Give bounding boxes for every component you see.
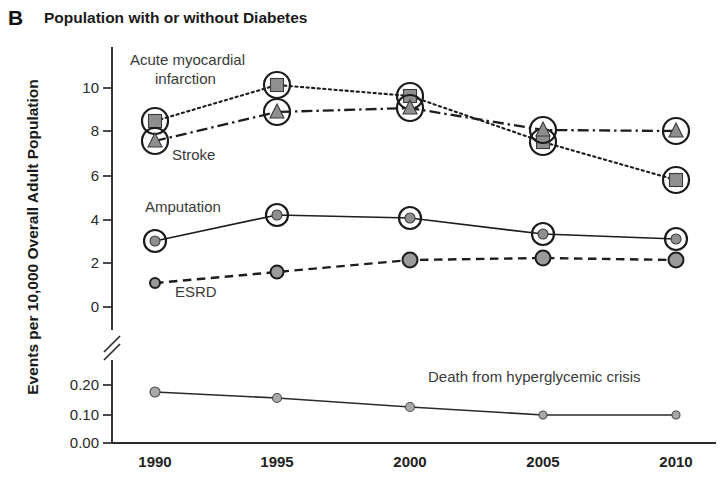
y-tick-label: 0.20 (70, 376, 99, 393)
series-esrd (150, 251, 684, 289)
y-tick-label: 6 (91, 167, 99, 184)
x-tick-label: 1995 (260, 453, 293, 470)
annotation-ami-line1: Acute myocardial (130, 51, 245, 68)
x-tick-label: 2000 (393, 453, 426, 470)
y-tick-label: 0 (91, 298, 99, 315)
x-tick-label: 2005 (526, 453, 559, 470)
annotation-ami-line2: infarction (155, 70, 216, 87)
y-ticks-upper: 10 8 6 4 2 0 (82, 79, 112, 315)
axis-break-icon (104, 336, 120, 360)
annotation-stroke: Stroke (172, 146, 215, 163)
annotation-death: Death from hyperglycemic crisis (428, 368, 641, 385)
series-death-from-hyperglycemic-crisis (150, 387, 680, 419)
y-tick-label: 2 (91, 254, 99, 271)
annotation-esrd: ESRD (175, 283, 217, 300)
y-tick-label: 0.10 (70, 406, 99, 423)
amputation-markers (144, 204, 687, 252)
annotation-amputation: Amputation (145, 198, 221, 215)
y-tick-label: 4 (91, 211, 99, 228)
chart-canvas: 10 8 6 4 2 0 0.20 0.10 0.00 1990 1995 20… (0, 0, 724, 488)
y-ticks-lower: 0.20 0.10 0.00 (70, 376, 112, 451)
series-amputation (144, 204, 687, 252)
y-tick-label: 0.00 (70, 434, 99, 451)
x-tick-labels: 1990 1995 2000 2005 2010 (138, 453, 692, 470)
y-axis (104, 47, 120, 443)
x-tick-label: 2010 (659, 453, 692, 470)
y-tick-label: 8 (91, 122, 99, 139)
x-tick-label: 1990 (138, 453, 171, 470)
figure-panel-b: B Population with or without Diabetes Ev… (0, 0, 724, 488)
series-stroke (142, 95, 689, 154)
ami-markers (142, 72, 689, 193)
y-tick-label: 10 (82, 79, 99, 96)
esrd-markers (150, 251, 684, 289)
death-line (155, 392, 676, 415)
series-acute-myocardial-infarction (142, 72, 689, 193)
